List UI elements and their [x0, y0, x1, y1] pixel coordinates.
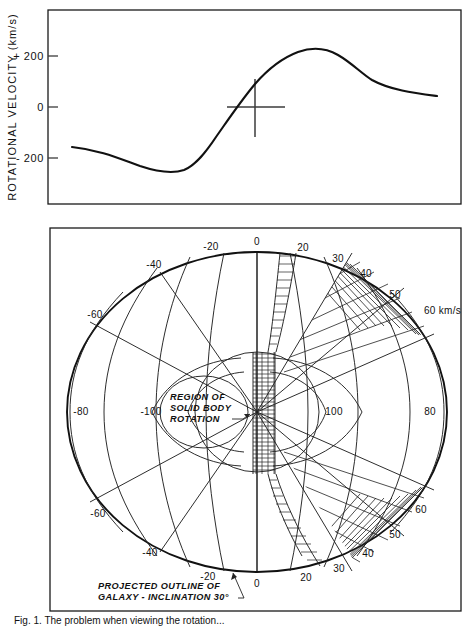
hatched-funnel-lower: [268, 474, 322, 566]
label-top-plus30: 30: [332, 253, 344, 264]
label-bottom-plus50: 50: [389, 529, 401, 540]
label-top-plus40: 40: [360, 268, 372, 279]
isovelocity-map-panel: -40 -20 0 20 30 40 50 -60 60 km/s -80 -1…: [50, 228, 461, 611]
figure-caption: Fig. 1. The problem when viewing the rot…: [14, 615, 224, 626]
label-bottom-plus60: 60: [415, 504, 427, 515]
label-top-plus50: 50: [389, 289, 401, 300]
y-tick-label-plus200: + 200: [13, 50, 44, 62]
funnel-upper-inner: [268, 253, 280, 352]
solid-body-line-2: SOLID BODY: [170, 403, 232, 413]
spoke-plus50-upper: [257, 334, 434, 412]
label-plus100: 100: [325, 406, 343, 417]
label-minus100: -100: [140, 406, 161, 417]
label-unit-60kms: 60 km/s: [424, 305, 461, 316]
spoke-minus40-upper: [160, 272, 257, 412]
label-bottom-zero: 0: [254, 578, 260, 589]
outline-note-line-1: PROJECTED OUTLINE OF: [98, 581, 220, 591]
spoke-plus40-lower: [257, 412, 404, 536]
rotation-curve-panel: ROTATIONAL VELOCITY (km/s) + 200 0 - 200: [6, 10, 461, 204]
solid-body-annotation: REGION OF SOLID BODY ROTATION: [170, 392, 250, 424]
label-top-plus20: 20: [297, 242, 309, 253]
contour-plus100: [270, 372, 326, 452]
label-plus80: 80: [424, 406, 436, 417]
figure-svg: ROTATIONAL VELOCITY (km/s) + 200 0 - 200: [0, 0, 475, 626]
label-top-minus20: -20: [203, 241, 218, 252]
spoke-plus50-lower: [257, 412, 434, 490]
label-bottom-plus40: 40: [362, 548, 374, 559]
label-bottom-plus30: 30: [333, 563, 345, 574]
label-minus80: -80: [73, 406, 88, 417]
projected-outline-annotation: PROJECTED OUTLINE OF GALAXY - INCLINATIO…: [98, 573, 244, 602]
label-top-minus40: -40: [146, 259, 161, 270]
figure-root: ROTATIONAL VELOCITY (km/s) + 200 0 - 200: [0, 0, 475, 626]
label-side-minus60-upper: -60: [87, 309, 102, 320]
bottom-panel-frame: [50, 228, 461, 611]
hatched-funnel-upper: [268, 253, 296, 352]
label-bottom-minus60: -60: [90, 508, 105, 519]
contour-plus20: [290, 253, 308, 571]
outline-note-line-2: GALAXY - INCLINATION 30°: [98, 592, 229, 602]
label-top-zero: 0: [254, 236, 260, 247]
spoke-minus60-lower: [90, 412, 257, 502]
solid-body-line-1: REGION OF: [170, 392, 225, 402]
contour-plus80: [273, 358, 362, 466]
solid-body-line-3: ROTATION: [170, 414, 220, 424]
y-tick-label-zero: 0: [37, 101, 44, 113]
spoke-minus40-lower: [160, 412, 257, 552]
spoke-plus40-upper: [257, 288, 404, 412]
y-tick-label-minus200: - 200: [16, 152, 44, 164]
spoke-plus30-lower: [257, 412, 352, 571]
label-bottom-plus20: 20: [300, 572, 312, 583]
y-axis-title: ROTATIONAL VELOCITY (km/s): [6, 13, 18, 201]
label-bottom-minus40: -40: [142, 547, 157, 558]
